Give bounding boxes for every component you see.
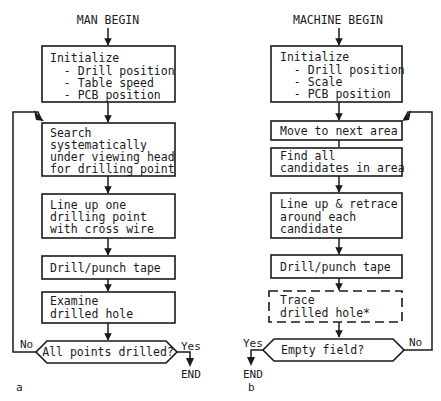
step-text: Trace bbox=[280, 293, 315, 307]
man-begin-label: MAN BEGIN bbox=[77, 13, 139, 27]
man-flowchart: MAN BEGIN Initialize - Drill position - … bbox=[13, 13, 201, 394]
step-text: - PCB position bbox=[280, 87, 391, 101]
step-text: Initialize bbox=[280, 50, 349, 64]
step-text: for drilling point bbox=[50, 162, 175, 176]
step-text: Move to next area bbox=[280, 124, 398, 138]
yes-label: Yes bbox=[243, 337, 263, 350]
step-text: candidates in area bbox=[280, 161, 405, 175]
step-text: Line up & retrace bbox=[280, 197, 398, 211]
panel-label-b: b bbox=[248, 381, 255, 394]
end-label: END bbox=[243, 368, 263, 381]
no-label: No bbox=[409, 336, 422, 349]
no-loop-line bbox=[13, 112, 42, 352]
machine-begin-label: MACHINE BEGIN bbox=[293, 13, 383, 27]
step-text: drilled hole* bbox=[280, 306, 370, 320]
step-text: - PCB position bbox=[50, 88, 161, 102]
arrow bbox=[247, 357, 255, 366]
step-text: candidate bbox=[280, 222, 342, 236]
decision-text: All points drilled? bbox=[42, 345, 174, 359]
no-label: No bbox=[20, 338, 33, 351]
step-text: Drill/punch tape bbox=[280, 260, 391, 274]
step-text: drilled hole bbox=[50, 307, 133, 321]
step-text: Drill/punch tape bbox=[50, 261, 161, 275]
panel-label-a: a bbox=[16, 381, 23, 394]
flowchart-canvas: MAN BEGIN Initialize - Drill position - … bbox=[0, 0, 441, 401]
step-text: Examine bbox=[50, 294, 99, 308]
arrow bbox=[34, 110, 44, 121]
end-label: END bbox=[181, 368, 201, 381]
decision-text: Empty field? bbox=[281, 343, 364, 357]
arrow bbox=[186, 358, 194, 367]
step-text: Initialize bbox=[50, 51, 119, 65]
machine-flowchart: MACHINE BEGIN Initialize - Drill positio… bbox=[243, 13, 432, 394]
yes-label: Yes bbox=[181, 340, 201, 353]
no-loop-line bbox=[404, 112, 432, 350]
step-text: with cross wire bbox=[50, 222, 154, 236]
